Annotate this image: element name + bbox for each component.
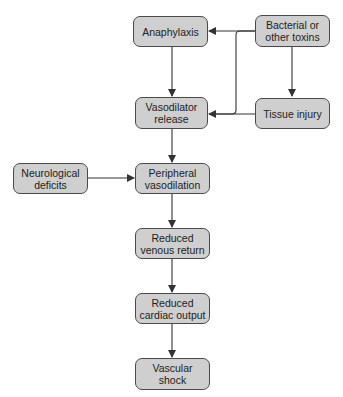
- node-label-line: Reduced: [140, 297, 206, 309]
- node-vascular-shock: Vascular shock: [135, 358, 210, 390]
- node-reduced-venous-return: Reduced venous return: [135, 228, 210, 259]
- node-neurological-deficits: Neurological deficits: [13, 163, 88, 194]
- node-reduced-cardiac-output: Reduced cardiac output: [135, 293, 210, 324]
- node-bacterial-toxins: Bacterial or other toxins: [255, 15, 330, 47]
- node-label-line: Neurological: [21, 167, 79, 179]
- node-label-line: Peripheral: [145, 167, 200, 179]
- edge-bacterial-vasodilator: [209, 31, 255, 114]
- node-label-line: shock: [152, 374, 192, 386]
- node-label-line: Vasodilator: [146, 101, 198, 113]
- node-label-line: venous return: [140, 244, 204, 256]
- node-label-line: vasodilation: [145, 179, 200, 191]
- node-label-line: Bacterial or: [265, 19, 319, 31]
- node-label-line: deficits: [21, 179, 79, 191]
- node-tissue-injury: Tissue injury: [255, 98, 330, 129]
- node-label-line: Tissue injury: [263, 108, 322, 120]
- node-vasodilator-release: Vasodilator release: [135, 97, 208, 129]
- node-peripheral-vasodilation: Peripheral vasodilation: [135, 163, 210, 194]
- node-label-line: Vascular: [152, 362, 192, 374]
- edges-layer: [0, 0, 343, 397]
- node-label-line: release: [146, 113, 198, 125]
- node-label-line: other toxins: [265, 31, 319, 43]
- node-anaphylaxis: Anaphylaxis: [133, 16, 208, 47]
- node-label-line: Anaphylaxis: [142, 26, 199, 38]
- node-label-line: cardiac output: [140, 309, 206, 321]
- node-label-line: Reduced: [140, 232, 204, 244]
